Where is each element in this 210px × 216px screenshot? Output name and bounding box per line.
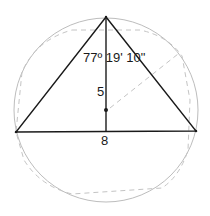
base-right-point <box>195 130 197 132</box>
base-left-point <box>15 131 17 133</box>
height-label: 5 <box>97 84 104 99</box>
apex-angle-label: 77º 19' 10" <box>83 50 146 65</box>
diagram-canvas: 77º 19' 10" 5 8 <box>0 0 210 216</box>
base-label: 8 <box>101 133 108 148</box>
center-dot <box>104 108 108 112</box>
apex-point <box>105 16 107 18</box>
